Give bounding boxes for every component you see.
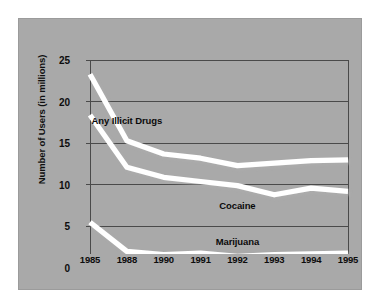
plot-area — [72, 42, 362, 254]
x-axis-tick-label: 1995 — [325, 254, 371, 265]
y-axis-tick-label: 15 — [46, 138, 70, 149]
y-axis-tick-label: 10 — [46, 179, 70, 190]
chart-panel: Number of Users (in millions) 2520151050 — [18, 18, 362, 290]
series-line-cocaine — [90, 115, 348, 195]
y-axis-tick-label: 5 — [46, 221, 70, 232]
y-axis-ticks: 2520151050 — [44, 18, 70, 290]
gridlines — [90, 60, 348, 254]
y-axis-tick-label: 25 — [46, 55, 70, 66]
series-label-cocaine: Cocaine — [219, 199, 255, 210]
x-axis-ticks: 19851988199019911992199319941995 — [72, 254, 362, 274]
chart-figure: Number of Users (in millions) 2520151050 — [0, 0, 383, 308]
y-axis-tick-label: 20 — [46, 96, 70, 107]
axis-frame — [90, 60, 348, 254]
axis-tick-marks — [86, 60, 348, 254]
series-label-any-illicit-drugs: Any Illicit Drugs — [92, 114, 163, 125]
series-label-marijuana: Marijuana — [216, 236, 259, 247]
